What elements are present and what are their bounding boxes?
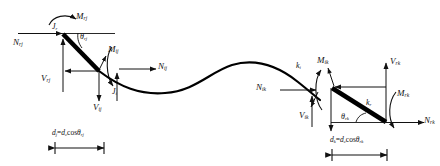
- label-moment-rj: Mrj: [76, 12, 87, 22]
- label-moment-Mij: Mij: [108, 45, 119, 55]
- label-shear-Vrk: Vrk: [390, 57, 400, 67]
- label-joint-ki: ki: [296, 62, 301, 71]
- label-joint-Ji: Ji: [112, 88, 117, 97]
- right-angle-arc: [356, 113, 366, 122]
- label-shear-Vik: Vik: [299, 111, 309, 121]
- label-dimension-dk: dk=dccosθrk: [330, 136, 363, 145]
- label-angle-theta-rj: θrj: [80, 33, 87, 42]
- right-dimension-line: [332, 149, 387, 161]
- label-axial-Nij: Nij: [158, 62, 167, 72]
- label-joint-kr: kr: [366, 99, 372, 108]
- label-shear-Vrj: Vrj: [41, 74, 50, 84]
- diagram-vector-layer: [0, 0, 440, 166]
- label-axial-Nrj: Nrj: [13, 38, 23, 48]
- label-shear-Vij: Vij: [93, 103, 102, 113]
- right-upper-pointer: [328, 68, 334, 86]
- left-moment-Mij-pointer: [99, 56, 106, 70]
- label-moment-Mik: Mik: [317, 56, 329, 66]
- label-axial-Nik: Nik: [256, 83, 266, 93]
- label-joint-Jr: Jr: [52, 23, 58, 32]
- label-moment-Mrk: Mrk: [397, 89, 409, 99]
- label-dimension-dj: dj=dccosθrj: [52, 129, 84, 138]
- deformed-member-curve: [99, 62, 320, 100]
- label-axial-Nrk: Nrk: [424, 116, 435, 126]
- label-angle-theta-rk: θrk: [341, 113, 349, 122]
- figure-canvas: Mrj Jr Nrj θrj Vrj Mij Nij Vij Ji dj=dcc…: [0, 0, 440, 166]
- left-dimension-line: [55, 142, 104, 154]
- right-moment-Mik-arc: [316, 70, 322, 110]
